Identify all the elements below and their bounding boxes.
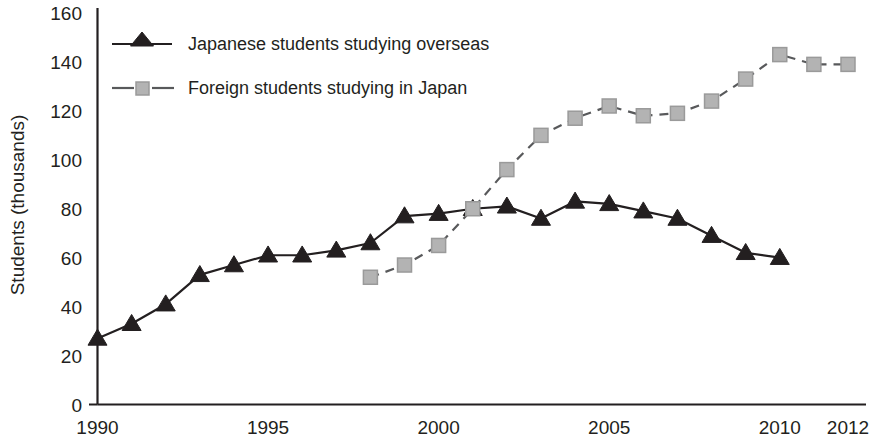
data-point-marker-square [841, 57, 855, 71]
data-point-marker-triangle [122, 314, 141, 330]
data-point-marker-square [807, 57, 821, 71]
line-chart: Students (thousands) 0204060801001201401… [0, 0, 873, 441]
x-tick-label: 2010 [759, 417, 801, 438]
x-tick-label: 2012 [827, 417, 869, 438]
data-point-marker-triangle [566, 192, 585, 208]
y-axis-tick-labels: 020406080100120140160 [50, 3, 82, 416]
y-tick-label: 140 [50, 52, 82, 73]
y-tick-label: 20 [61, 346, 82, 367]
x-tick-label: 2005 [588, 417, 630, 438]
x-tick-label: 1995 [247, 417, 289, 438]
data-point-marker-square [398, 258, 412, 272]
y-axis-title: Students (thousands) [7, 115, 28, 296]
data-point-marker-triangle [736, 243, 755, 259]
y-tick-label: 0 [71, 395, 82, 416]
data-point-marker-square [602, 99, 616, 113]
data-point-marker-triangle [702, 226, 721, 242]
data-point-marker-square [773, 48, 787, 62]
y-tick-label: 60 [61, 248, 82, 269]
x-tick-label: 2000 [417, 417, 459, 438]
data-point-marker-square [500, 163, 514, 177]
y-tick-label: 80 [61, 199, 82, 220]
data-point-marker-triangle [259, 246, 278, 262]
y-axis-title-text: Students (thousands) [7, 115, 28, 296]
y-tick-label: 40 [61, 297, 82, 318]
x-axis-tick-labels: 199019952000200520102012 [76, 417, 869, 438]
data-point-marker-square [739, 72, 753, 86]
data-point-marker-square [705, 94, 719, 108]
y-tick-label: 120 [50, 101, 82, 122]
data-point-marker-triangle [361, 234, 380, 250]
chart-plot-area: Students (thousands) 0204060801001201401… [0, 0, 873, 441]
data-point-marker-square [568, 111, 582, 125]
chart-legend: Japanese students studying overseas Fore… [112, 32, 489, 98]
data-point-marker-square [670, 106, 684, 120]
x-tick-label: 1990 [76, 417, 118, 438]
data-point-marker-triangle [88, 329, 107, 345]
data-point-marker-square [432, 238, 446, 252]
legend-marker-triangle-icon [131, 32, 154, 46]
data-point-marker-square [363, 270, 377, 284]
data-point-marker-square [466, 202, 480, 216]
y-tick-label: 100 [50, 150, 82, 171]
legend-marker-square-icon [136, 82, 149, 95]
legend-label-overseas: Japanese students studying overseas [188, 34, 489, 54]
data-point-marker-square [636, 109, 650, 123]
legend-label-inbound: Foreign students studying in Japan [188, 78, 467, 98]
data-point-marker-triangle [497, 197, 516, 213]
y-tick-label: 160 [50, 3, 82, 24]
data-point-marker-square [534, 128, 548, 142]
